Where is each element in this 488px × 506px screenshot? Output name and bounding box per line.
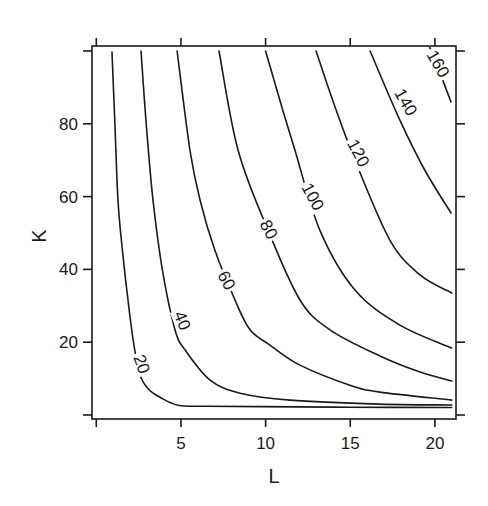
contour-chart: 20406080100120140160 5101520 20406080 L … bbox=[0, 0, 488, 506]
contour-label-20: 20 bbox=[129, 350, 155, 378]
contour-label-80: 80 bbox=[255, 215, 283, 244]
x-axis-title: L bbox=[268, 465, 279, 487]
contour-label-60: 60 bbox=[212, 266, 240, 295]
x-tick-label: 15 bbox=[341, 434, 360, 453]
y-axis-title: K bbox=[28, 229, 50, 243]
contour-line-120 bbox=[316, 51, 452, 293]
y-tick-label: 40 bbox=[59, 260, 78, 279]
contour-label-160: 160 bbox=[421, 45, 454, 83]
y-tick-label: 80 bbox=[59, 115, 78, 134]
contour-label-100: 100 bbox=[296, 178, 328, 216]
x-tick-label: 20 bbox=[425, 434, 444, 453]
y-tick-label: 20 bbox=[59, 333, 78, 352]
contour-label-text: 80 bbox=[256, 217, 282, 243]
contour-plot-svg: 20406080100120140160 5101520 20406080 L … bbox=[0, 0, 488, 506]
contour-label-text: 60 bbox=[213, 268, 239, 294]
contour-label-140: 140 bbox=[389, 83, 422, 121]
contour-line-100 bbox=[266, 51, 452, 348]
x-tick-label: 5 bbox=[176, 434, 185, 453]
x-tick-label: 10 bbox=[256, 434, 275, 453]
x-axis: 5101520 bbox=[96, 38, 444, 453]
contour-label-40: 40 bbox=[169, 306, 195, 335]
y-tick-label: 60 bbox=[59, 188, 78, 207]
contour-line-80 bbox=[219, 51, 452, 381]
